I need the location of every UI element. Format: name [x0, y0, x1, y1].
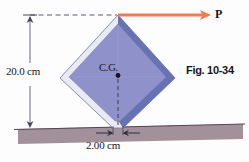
- center-of-gravity-label: C.G.: [99, 62, 118, 73]
- center-of-gravity-dot: [116, 73, 121, 78]
- base-width-label: 2.00 cm: [86, 139, 120, 151]
- physics-figure: 20.0 cm 2.00 cm C.G. P Fig. 10-34: [0, 0, 249, 162]
- height-label: 20.0 cm: [6, 65, 40, 77]
- figure-canvas: [0, 0, 249, 162]
- ground-surface: [14, 124, 245, 144]
- force-label: P: [215, 7, 222, 22]
- force-vector-p: [118, 10, 211, 20]
- figure-caption: Fig. 10-34: [186, 64, 234, 76]
